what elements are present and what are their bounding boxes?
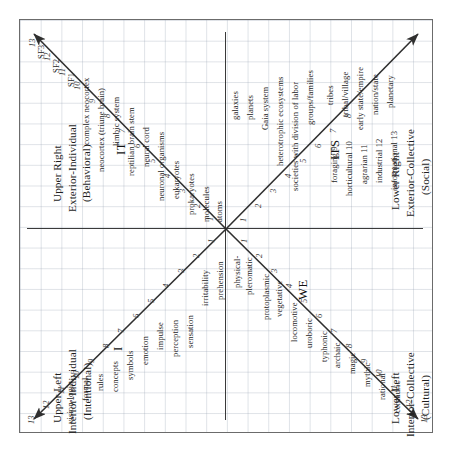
ur-label-eukaryotes: eukaryotes	[172, 161, 181, 199]
lr-label-tribes: tribes	[326, 85, 335, 105]
ul-label-symbols: symbols	[126, 351, 135, 380]
ul-number-5: 5	[147, 299, 156, 303]
ul-number-1: 1	[207, 239, 216, 243]
ul-label-prehension: prehension	[216, 261, 225, 300]
ll-label-protoplasmic: protoplasmic	[262, 274, 271, 320]
ll-label-typhonic: typhonic	[320, 331, 329, 362]
upper-left-title: Upper Left	[52, 373, 63, 423]
lr-stage-informational: informational 13	[390, 131, 399, 190]
ur-label-complex-neocortex: complex neocortex	[82, 78, 91, 145]
ll-number-6: 6	[315, 314, 324, 318]
upper-left-pronoun: I	[112, 346, 125, 351]
ur-label-neural-cord: neural cord	[142, 127, 151, 167]
upper-right-title: Upper Right	[52, 145, 63, 202]
ll-number-1: 1	[240, 239, 249, 243]
lr-label-planetary: planetary	[386, 75, 395, 108]
ul-label-emotion: emotion	[141, 336, 150, 365]
ll-number-8: 8	[345, 344, 354, 348]
lower-left-subtitle: Interior-Collective	[405, 352, 416, 437]
ur-label-reptilian-brain-stem: reptilian brain stem	[127, 107, 136, 176]
ll-label-mythic: mythic	[363, 363, 372, 387]
ll-number-3: 3	[270, 269, 279, 273]
ll-number-13: 13	[420, 414, 429, 423]
ul-number-12: 12	[42, 400, 51, 409]
ul-label-rules: rules	[96, 374, 105, 391]
lr-label-early-state-empire: early state/empire	[356, 67, 365, 130]
ul-number-4: 4	[162, 284, 171, 288]
lr-label-galaxies: galaxies	[231, 91, 240, 120]
ul-number-2: 2	[192, 254, 201, 258]
lr-stage-foraging: foraging 9	[330, 146, 339, 183]
lr-label-planets: planets	[246, 95, 255, 120]
ur-label-molecules: molecules	[202, 186, 211, 222]
ll-label-rational: rational	[378, 373, 387, 400]
ul-number-13: 13	[27, 415, 36, 424]
ll-number-5: 5	[300, 299, 309, 303]
lower-left-parenthetical: (Cultural)	[420, 375, 431, 420]
lr-number-2: 2	[254, 204, 263, 208]
ll-label-locomotive: locomotive	[290, 302, 299, 342]
ll-number-4: 4	[285, 284, 294, 288]
ul-number-9: 9	[87, 359, 96, 363]
upper-right-subtitle: Exterior-Individual	[67, 124, 78, 212]
ll-number-2: 2	[255, 254, 264, 258]
ur-label-neocortex: neocortex (triune brain)	[97, 88, 106, 172]
lr-label-tribal-village: tribal/village	[341, 72, 350, 117]
lr-number-1: 1	[239, 218, 248, 222]
ul-label-sensation: sensation	[186, 315, 195, 348]
upper-right-parenthetical: (Behavioral)	[81, 144, 92, 202]
ul-number-6: 6	[132, 314, 141, 318]
ll-number-7: 7	[330, 329, 339, 333]
ul-number-7: 7	[117, 329, 126, 333]
ur-label-sf2: SF2	[52, 59, 61, 73]
lower-left-pronoun: WE	[297, 279, 310, 300]
ur-label-prokaryotes: prokaryotes	[187, 173, 196, 215]
ll-label-magic: magic	[348, 353, 357, 375]
lr-number-3: 3	[269, 189, 278, 193]
ul-label-irritability: irritability	[201, 270, 210, 306]
ul-label-perception: perception	[171, 320, 180, 357]
lr-label-groups-families: groups/families	[306, 70, 315, 125]
lr-stage-industrial: industrial 12	[375, 138, 384, 183]
lr-stage-horticultural: horticultural 10	[345, 141, 354, 196]
lr-stage-agrarian: agrarian 11	[360, 144, 369, 184]
ll-number-12: 12	[405, 399, 414, 408]
ll-label-vegetative: vegetative	[275, 281, 284, 317]
lr-label-heterotrophic-ecosystems: heterotrophic ecosystems	[276, 76, 285, 166]
ul-label-vision-logic: vision-logic	[66, 382, 75, 424]
ul-number-8: 8	[102, 344, 111, 348]
ur-label-limbic-system: limbic system	[112, 97, 121, 146]
ur-label-atoms: atoms	[215, 201, 224, 222]
ur-label-sf3: SF3	[37, 45, 46, 59]
ll-label-pleromatic: pleromatic	[245, 257, 254, 295]
ll-label-uroboric: uroboric	[305, 318, 314, 348]
ul-label-impulse: impulse	[156, 322, 165, 350]
ll-label-archaic: archaic	[333, 342, 342, 368]
ur-label-sf1: SF1	[67, 73, 76, 87]
lr-number-5: 5	[299, 159, 308, 163]
ul-number-3: 3	[177, 269, 186, 273]
lr-label-gaia-system: Gaia system	[261, 87, 270, 130]
ll-label-centauric: centauric	[393, 381, 402, 413]
lr-label-nation-state: nation/state	[371, 74, 380, 115]
ul-label-formal: formal	[81, 377, 90, 401]
ul-label-concepts: concepts	[111, 361, 120, 392]
lr-number-6: 6	[314, 144, 323, 148]
lr-label-societies: societies with division of labor	[291, 82, 300, 191]
lower-right-subtitle: Exterior-Collective	[405, 129, 416, 217]
ur-label-neuronal-organisms: neuronal organisms	[157, 132, 166, 201]
ll-label-physical: physical-	[233, 256, 242, 288]
diagram-canvas: Upper Right Exterior-Individual (Behavio…	[0, 0, 450, 459]
lower-right-parenthetical: (Social)	[420, 159, 431, 195]
lr-number-7: 7	[329, 129, 338, 133]
